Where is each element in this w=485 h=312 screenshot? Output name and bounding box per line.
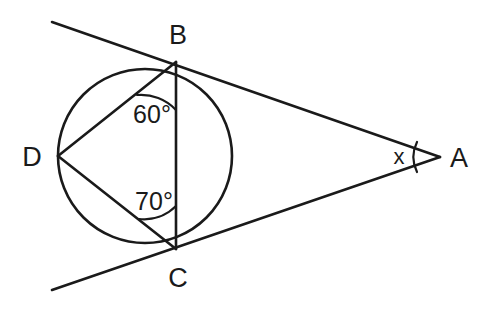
geometry-diagram: B C D A 60° 70° x: [0, 0, 485, 312]
tangent-line-at-b: [52, 22, 440, 157]
angle-arc-at-a: [414, 142, 417, 172]
vertex-label-b: B: [169, 20, 187, 50]
vertex-label-c: C: [168, 263, 188, 293]
angle-label-a: x: [394, 144, 405, 169]
vertex-label-d: D: [22, 142, 42, 172]
vertex-label-a: A: [450, 143, 468, 173]
geometry-canvas: B C D A 60° 70° x: [0, 0, 485, 312]
angle-label-dcb: 70°: [135, 187, 173, 215]
tangent-line-at-c: [52, 157, 440, 290]
angle-label-dbc: 60°: [133, 100, 171, 128]
